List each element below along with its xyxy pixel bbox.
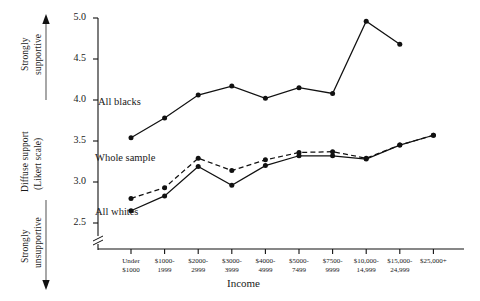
x-axis-title: Income xyxy=(227,277,260,289)
series-label-all-whites: All whites xyxy=(95,206,138,217)
data-point-all-blacks-7 xyxy=(364,19,369,24)
data-point-whole-sample-0 xyxy=(129,196,134,201)
series-line-whole-sample xyxy=(131,135,433,198)
y-axis-top-annotation: Strongly xyxy=(20,8,31,100)
data-point-all-blacks-6 xyxy=(330,91,335,96)
data-point-all-whites-3 xyxy=(229,183,234,188)
series-line-all-whites xyxy=(131,135,433,210)
data-point-all-whites-6 xyxy=(330,153,335,158)
data-point-all-blacks-4 xyxy=(263,96,268,101)
data-point-all-blacks-1 xyxy=(162,116,167,121)
x-tick-label-9: $25,000+ xyxy=(405,257,461,266)
y-tick-label-5: 5.0 xyxy=(60,11,86,22)
data-point-whole-sample-1 xyxy=(162,185,167,190)
data-point-all-whites-4 xyxy=(263,163,268,168)
data-point-all-whites-1 xyxy=(162,193,167,198)
y-tick-label-1: 3.0 xyxy=(60,175,86,186)
series-line-all-blacks xyxy=(131,21,400,137)
series-label-all-blacks: All blacks xyxy=(98,96,141,107)
data-point-whole-sample-4 xyxy=(263,157,268,162)
data-point-all-blacks-0 xyxy=(129,135,134,140)
chart-figure: Strongly supportive Diffuse support (Lik… xyxy=(0,0,480,301)
y-axis-title-text1: Diffuse support xyxy=(20,132,30,193)
y-axis-bottom-annotation-line1: Strongly xyxy=(20,229,30,263)
y-axis-title-text2: (Likert scale) xyxy=(33,138,43,190)
y-tick-label-2: 3.5 xyxy=(60,134,86,145)
data-point-all-blacks-2 xyxy=(196,93,201,98)
y-axis-bottom-annotation-2: unsupportive xyxy=(33,190,44,296)
y-axis-bottom-annotation-line2: unsupportive xyxy=(33,218,43,269)
x-tick-label-8-line2: 24,999 xyxy=(390,266,409,274)
series-label-whole-sample: Whole sample xyxy=(95,152,155,163)
y-axis-top-annotation-line1: Strongly xyxy=(20,37,30,71)
y-axis-top-annotation-line2: supportive xyxy=(33,33,43,74)
data-point-all-whites-5 xyxy=(297,153,302,158)
data-point-all-blacks-8 xyxy=(397,42,402,47)
data-point-whole-sample-2 xyxy=(196,156,201,161)
y-tick-label-0: 2.5 xyxy=(60,216,86,227)
chart-plot-area xyxy=(0,0,480,301)
data-point-whole-sample-3 xyxy=(229,168,234,173)
y-axis-bottom-annotation: Strongly xyxy=(20,196,31,296)
data-point-all-blacks-5 xyxy=(297,85,302,90)
data-point-all-blacks-3 xyxy=(229,84,234,89)
data-point-all-whites-7 xyxy=(364,157,369,162)
y-tick-label-4: 4.5 xyxy=(60,52,86,63)
data-point-all-whites-8 xyxy=(397,143,402,148)
data-point-all-whites-9 xyxy=(431,133,436,138)
y-tick-label-3: 4.0 xyxy=(60,93,86,104)
series-layer xyxy=(129,19,436,213)
data-point-all-whites-2 xyxy=(196,164,201,169)
y-axis-top-annotation-2: supportive xyxy=(33,8,44,100)
